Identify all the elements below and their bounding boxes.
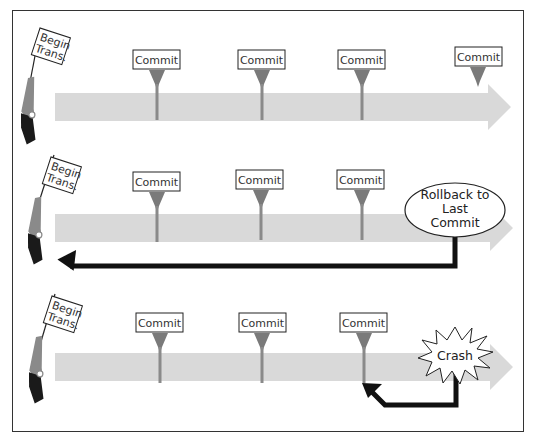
- row-normal: Begin Trans. Commit Commit Commit Commit: [17, 28, 511, 146]
- commit-label: Commit: [339, 174, 383, 187]
- begin-transaction-flag: Begin Trans.: [24, 155, 84, 266]
- begin-transaction-flag: Begin Trans.: [25, 294, 85, 405]
- rollback-callout: Rollback to Last Commit: [405, 183, 505, 237]
- commit-label: Commit: [240, 54, 284, 67]
- commit-label: Commit: [238, 174, 282, 187]
- rollback-line2: Last: [442, 201, 468, 216]
- timeline-arrow: [55, 84, 511, 130]
- row-rollback: Begin Trans. Commit Commit Commit Rollba…: [24, 155, 513, 273]
- commit-label: Commit: [457, 51, 501, 64]
- starter-pistol-icon: [25, 335, 52, 405]
- transaction-diagram: Begin Trans. Commit Commit Commit Commit: [0, 0, 533, 440]
- row-crash: Begin Trans. Commit Commit Commit Crash: [25, 294, 513, 405]
- commit-label: Commit: [340, 54, 384, 67]
- commit-label: Commit: [138, 317, 182, 330]
- commit-label: Commit: [135, 176, 179, 189]
- commit-marker: Commit: [455, 47, 502, 87]
- crash-label: Crash: [437, 348, 473, 363]
- commit-label: Commit: [342, 317, 386, 330]
- starter-pistol-icon: [24, 196, 51, 266]
- starter-pistol-icon: [17, 76, 44, 146]
- commit-label: Commit: [135, 54, 179, 67]
- begin-transaction-flag: Begin Trans.: [17, 28, 73, 146]
- rollback-line3: Commit: [430, 215, 479, 230]
- rollback-line1: Rollback to: [421, 187, 490, 202]
- commit-label: Commit: [241, 317, 285, 330]
